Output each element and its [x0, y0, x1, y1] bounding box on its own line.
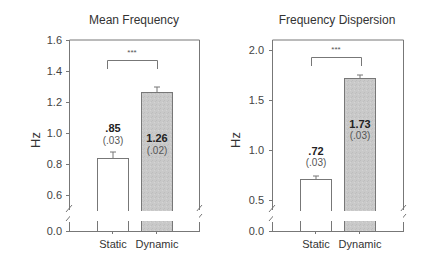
svg-text:0.6: 0.6	[47, 189, 62, 201]
value-label-static: .85	[105, 122, 120, 134]
y-tick-labels: 1.6 1.4 1.2 1.0 0.8 0.6 0.0	[47, 34, 62, 237]
value-label-dynamic: 1.26	[146, 132, 167, 144]
error-label-static: (.03)	[306, 157, 327, 168]
svg-text:1.2: 1.2	[47, 96, 62, 108]
svg-text:1.0: 1.0	[47, 127, 62, 139]
plot-frame	[69, 40, 200, 232]
figure: Mean Frequency Hz	[0, 0, 421, 262]
svg-text:0.0: 0.0	[47, 225, 62, 237]
svg-text:0.8: 0.8	[47, 158, 62, 170]
svg-text:1.6: 1.6	[47, 34, 62, 46]
x-label-static: Static	[302, 238, 330, 250]
error-label-dynamic: (.03)	[350, 130, 371, 141]
svg-text:0.5: 0.5	[249, 194, 264, 206]
value-label-dynamic: 1.73	[349, 118, 370, 130]
bar-dynamic	[142, 87, 173, 232]
error-label-dynamic: (.02)	[147, 145, 168, 156]
x-label-static: Static	[99, 238, 127, 250]
significance-bracket	[312, 58, 362, 67]
x-label-dynamic: Dynamic	[339, 238, 382, 250]
y-axis-label: Hz	[228, 132, 243, 148]
error-label-static: (.03)	[103, 135, 124, 146]
break-gap	[70, 211, 199, 221]
svg-text:1.5: 1.5	[249, 94, 264, 106]
plot-frame	[272, 40, 404, 232]
y-axis-label: Hz	[28, 132, 43, 148]
svg-text:1.0: 1.0	[249, 144, 264, 156]
svg-text:1.4: 1.4	[47, 65, 62, 77]
chart-title: Mean Frequency	[89, 13, 179, 27]
break-gap	[273, 211, 403, 221]
chart-frequency-dispersion: Frequency Dispersion Hz 2.0	[228, 13, 406, 250]
value-label-static: .72	[308, 145, 323, 157]
chart-mean-frequency: Mean Frequency Hz	[28, 13, 202, 250]
significance-label: ***	[127, 48, 136, 57]
x-label-dynamic: Dynamic	[136, 238, 179, 250]
y-tick-labels: 2.0 1.5 1.0 0.5 0.0	[249, 44, 264, 237]
svg-text:2.0: 2.0	[249, 44, 264, 56]
svg-text:0.0: 0.0	[249, 225, 264, 237]
significance-bracket	[108, 61, 158, 70]
chart-title: Frequency Dispersion	[279, 13, 396, 27]
significance-label: ***	[331, 45, 340, 54]
bar-dynamic	[345, 75, 376, 232]
bar-static	[301, 176, 332, 232]
